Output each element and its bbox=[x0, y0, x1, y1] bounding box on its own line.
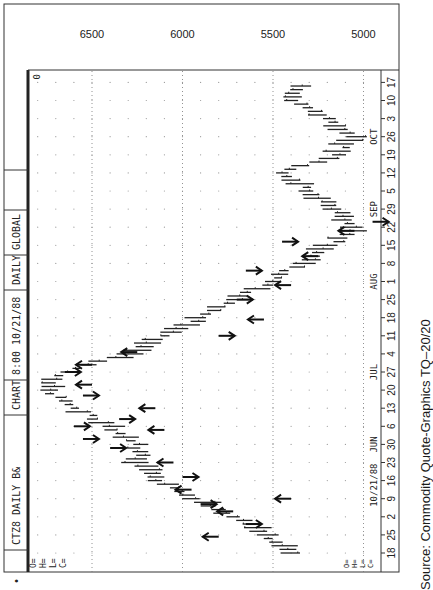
grid-dot bbox=[363, 154, 364, 155]
grid-dot bbox=[309, 154, 310, 155]
grid-dot bbox=[200, 534, 201, 535]
date-tick-label: 1 bbox=[386, 278, 397, 284]
buy-arrow-icon bbox=[201, 500, 217, 508]
grid-dot bbox=[363, 462, 364, 463]
grid-dot bbox=[236, 552, 237, 553]
grid-dot bbox=[182, 209, 183, 210]
grid-dot bbox=[128, 245, 129, 246]
grid-dot bbox=[327, 100, 328, 101]
grid-dot bbox=[164, 317, 165, 318]
grid-dot bbox=[200, 281, 201, 282]
grid-dot bbox=[327, 227, 328, 228]
grid-dot bbox=[254, 462, 255, 463]
grid-dot bbox=[146, 172, 147, 173]
grid-dot bbox=[218, 227, 219, 228]
grid-dot bbox=[327, 353, 328, 354]
grid-dot bbox=[200, 263, 201, 264]
price-tick-label: 6000 bbox=[170, 28, 194, 40]
grid-dot bbox=[110, 154, 111, 155]
date-tick-label: 13 bbox=[386, 402, 397, 414]
grid-dot bbox=[164, 190, 165, 191]
header-cell-text: CTZ8 DAILY B& bbox=[11, 467, 22, 545]
grid-dot bbox=[164, 245, 165, 246]
grid-dot bbox=[91, 136, 92, 137]
ohlc-label-bottom: H= bbox=[351, 560, 359, 568]
grid-dot bbox=[73, 82, 74, 83]
grid-dot bbox=[309, 82, 310, 83]
grid-dot bbox=[218, 534, 219, 535]
grid-dot bbox=[363, 480, 364, 481]
grid-dot bbox=[218, 371, 219, 372]
grid-dot bbox=[37, 390, 38, 391]
grid-dot bbox=[272, 227, 273, 228]
grid-dot bbox=[309, 371, 310, 372]
grid-dot bbox=[345, 534, 346, 535]
grid-dot bbox=[254, 154, 255, 155]
grid-dot bbox=[272, 516, 273, 517]
grid-dot bbox=[272, 263, 273, 264]
grid-dot bbox=[73, 353, 74, 354]
month-label: SEP bbox=[369, 200, 379, 217]
grid-dot bbox=[272, 317, 273, 318]
grid-dot bbox=[37, 516, 38, 517]
grid-dot bbox=[128, 408, 129, 409]
grid-dot bbox=[363, 245, 364, 246]
grid-dot bbox=[309, 516, 310, 517]
grid-dot bbox=[363, 444, 364, 445]
date-tick-label: 9 bbox=[386, 495, 397, 501]
grid-dot bbox=[345, 172, 346, 173]
grid-dot bbox=[128, 426, 129, 427]
grid-dot bbox=[254, 317, 255, 318]
grid-dot bbox=[254, 516, 255, 517]
grid-dot bbox=[272, 335, 273, 336]
date-tick-label: 27 bbox=[386, 366, 397, 378]
grid-dot bbox=[164, 353, 165, 354]
grid-dot bbox=[110, 281, 111, 282]
grid-dot bbox=[55, 516, 56, 517]
grid-dot bbox=[291, 534, 292, 535]
grid-dot bbox=[327, 335, 328, 336]
grid-dot bbox=[182, 480, 183, 481]
sell-arrow-icon bbox=[176, 486, 192, 494]
grid-dot bbox=[91, 190, 92, 191]
grid-dot bbox=[55, 172, 56, 173]
grid-dot bbox=[309, 227, 310, 228]
grid-dot bbox=[291, 154, 292, 155]
grid-dot bbox=[272, 426, 273, 427]
grid-dot bbox=[91, 480, 92, 481]
grid-dot bbox=[110, 444, 111, 445]
grid-dot bbox=[73, 100, 74, 101]
ohlc-label-bottom: O= bbox=[343, 560, 351, 568]
grid-dot bbox=[327, 190, 328, 191]
grid-dot bbox=[254, 534, 255, 535]
grid-dot bbox=[73, 390, 74, 391]
grid-dot bbox=[146, 426, 147, 427]
grid-dot bbox=[345, 82, 346, 83]
grid-dot bbox=[291, 190, 292, 191]
grid-dot bbox=[363, 82, 364, 83]
grid-dot bbox=[91, 299, 92, 300]
grid-dot bbox=[55, 118, 56, 119]
date-tick-label: 25 bbox=[386, 294, 397, 306]
grid-dot bbox=[291, 263, 292, 264]
grid-dot bbox=[182, 172, 183, 173]
grid-dot bbox=[200, 299, 201, 300]
grid-dot bbox=[218, 516, 219, 517]
grid-dot bbox=[91, 82, 92, 83]
grid-dot bbox=[110, 552, 111, 553]
grid-dot bbox=[218, 154, 219, 155]
grid-dot bbox=[327, 426, 328, 427]
grid-dot bbox=[37, 353, 38, 354]
grid-dot bbox=[146, 516, 147, 517]
grid-dot bbox=[327, 172, 328, 173]
grid-dot bbox=[110, 136, 111, 137]
grid-dot bbox=[73, 227, 74, 228]
grid-dot bbox=[146, 82, 147, 83]
grid-dot bbox=[363, 317, 364, 318]
date-tick-label: 23 bbox=[386, 457, 397, 469]
grid-dot bbox=[218, 209, 219, 210]
grid-dot bbox=[309, 408, 310, 409]
grid-dot bbox=[164, 299, 165, 300]
grid-dot bbox=[164, 281, 165, 282]
grid-dot bbox=[182, 100, 183, 101]
